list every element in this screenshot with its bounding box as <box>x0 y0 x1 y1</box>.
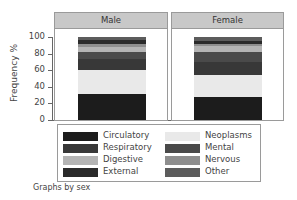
bar-male <box>78 37 146 120</box>
y-tick-label: 20 <box>25 97 45 107</box>
y-axis-line <box>52 37 53 121</box>
bar-segment-neoplasms <box>194 75 262 97</box>
y-tick-label: 100 <box>25 31 45 41</box>
bar-segment-respiratory <box>78 59 146 70</box>
legend-label: Other <box>205 166 229 176</box>
y-tick <box>48 120 52 121</box>
legend-swatch <box>165 156 200 165</box>
legend-label: Neoplasms <box>205 130 252 140</box>
legend-swatch <box>165 132 200 141</box>
legend: Circulatory Respiratory Digestive Extern… <box>57 124 261 182</box>
legend-label: Digestive <box>103 154 143 164</box>
legend-swatch <box>165 144 200 153</box>
y-tick <box>48 54 52 55</box>
legend-swatch <box>63 168 98 177</box>
legend-label: External <box>103 166 138 176</box>
y-tick <box>48 103 52 104</box>
legend-swatch <box>63 132 98 141</box>
y-tick-label: 0 <box>25 114 45 124</box>
bar-female <box>194 37 262 120</box>
graphs-by-note: Graphs by sex <box>33 183 90 192</box>
y-tick-label: 40 <box>25 81 45 91</box>
y-tick-label: 60 <box>25 64 45 74</box>
bar-segment-respiratory <box>194 62 262 75</box>
legend-swatch <box>63 144 98 153</box>
legend-label: Mental <box>205 142 234 152</box>
legend-label: Respiratory <box>103 142 152 152</box>
legend-swatch <box>63 156 98 165</box>
legend-label: Circulatory <box>103 130 149 140</box>
y-tick <box>48 37 52 38</box>
y-axis-label: Frequency % <box>9 43 19 103</box>
y-tick <box>48 87 52 88</box>
panel-header-male: Male <box>55 13 167 29</box>
bar-segment-circulatory <box>194 97 262 120</box>
legend-label: Nervous <box>205 154 240 164</box>
panel-header-female: Female <box>172 13 283 29</box>
legend-swatch <box>165 168 200 177</box>
bar-segment-mental <box>78 52 146 59</box>
bar-segment-circulatory <box>78 94 146 120</box>
y-tick-label: 80 <box>25 48 45 58</box>
bar-segment-mental <box>194 52 262 62</box>
y-tick <box>48 70 52 71</box>
bar-segment-neoplasms <box>78 70 146 94</box>
